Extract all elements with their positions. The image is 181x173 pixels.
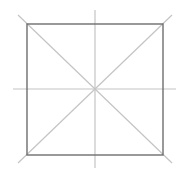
square-symmetry-diagram	[0, 0, 181, 173]
symmetry-lines	[13, 10, 176, 168]
diagram-canvas	[0, 0, 181, 173]
